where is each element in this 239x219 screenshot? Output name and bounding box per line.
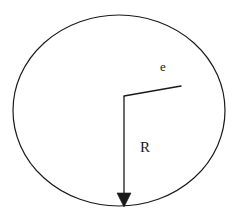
outer-circle-shape xyxy=(13,15,225,206)
radius-arrowhead xyxy=(117,193,131,207)
diagram-svg xyxy=(0,0,239,219)
figure-canvas: e R xyxy=(0,0,239,219)
eccentricity-line-shape xyxy=(124,86,181,96)
eccentricity-label: e xyxy=(160,60,166,73)
radius-label: R xyxy=(140,140,150,155)
